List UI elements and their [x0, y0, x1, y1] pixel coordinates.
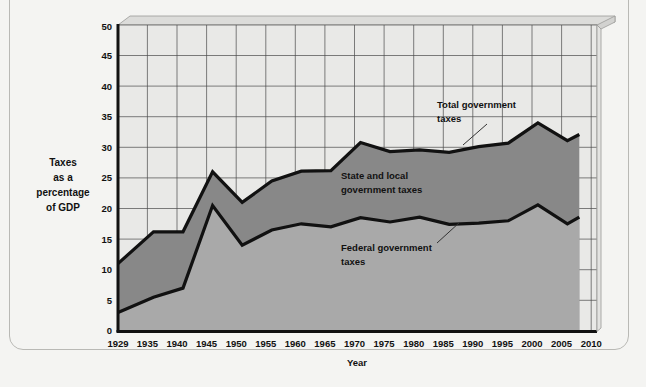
- y-tick-45: 45: [101, 50, 112, 61]
- x-tick-1970: 1970: [344, 338, 365, 349]
- annotation-total-line-1: Total government: [437, 99, 517, 110]
- y-axis-title: Taxes as a percentage of GDP: [36, 157, 90, 213]
- x-tick-2005: 2005: [551, 338, 573, 349]
- x-tick-1935: 1935: [137, 338, 159, 349]
- y-tick-25: 25: [101, 172, 112, 183]
- annotation-state-local-line-2: government taxes: [341, 184, 422, 195]
- x-tick-labels: 1929 1935 1940 1945 1950 1955 1960 1965 …: [107, 338, 601, 349]
- x-tick-1975: 1975: [374, 338, 396, 349]
- y-axis-title-line-2: as a: [53, 172, 73, 183]
- y-axis-title-line-1: Taxes: [49, 157, 77, 168]
- x-tick-1955: 1955: [255, 338, 277, 349]
- y-tick-labels: 0 5 10 15 20 25 30 35 40 45 50: [101, 21, 112, 337]
- x-tick-2000: 2000: [521, 338, 542, 349]
- y-tick-30: 30: [101, 142, 112, 153]
- y-axis-title-line-3: percentage: [36, 187, 90, 198]
- y-tick-15: 15: [101, 234, 112, 245]
- y-tick-20: 20: [101, 203, 112, 214]
- y-axis-title-line-4: of GDP: [46, 202, 80, 213]
- y-tick-0: 0: [107, 325, 112, 336]
- x-tick-1980: 1980: [403, 338, 424, 349]
- y-tick-40: 40: [101, 81, 112, 92]
- x-tick-1929: 1929: [107, 338, 128, 349]
- y-tick-35: 35: [101, 111, 112, 122]
- taxes-percentage-gdp-area-chart: 0 5 10 15 20 25 30 35 40 45 50 1929 1935…: [0, 0, 646, 387]
- y-tick-5: 5: [107, 295, 113, 306]
- chart-page: 0 5 10 15 20 25 30 35 40 45 50 1929 1935…: [0, 0, 646, 387]
- x-tick-2010: 2010: [581, 338, 602, 349]
- x-tick-1990: 1990: [462, 338, 483, 349]
- x-axis-3d-end: [597, 25, 601, 332]
- y-tick-10: 10: [101, 264, 112, 275]
- x-tick-1965: 1965: [314, 338, 336, 349]
- x-axis-title: Year: [347, 357, 367, 368]
- x-tick-1985: 1985: [433, 338, 455, 349]
- y-tick-50: 50: [101, 21, 112, 32]
- annotation-state-local-line-1: State and local: [341, 170, 408, 181]
- annotation-federal-line-2: taxes: [341, 256, 365, 267]
- x-tick-1960: 1960: [285, 338, 306, 349]
- x-tick-1995: 1995: [492, 338, 514, 349]
- annotation-total-line-2: taxes: [437, 113, 461, 124]
- x-tick-1950: 1950: [226, 338, 247, 349]
- x-tick-1940: 1940: [166, 338, 187, 349]
- x-tick-1945: 1945: [196, 338, 218, 349]
- annotation-federal-line-1: Federal government: [341, 242, 433, 253]
